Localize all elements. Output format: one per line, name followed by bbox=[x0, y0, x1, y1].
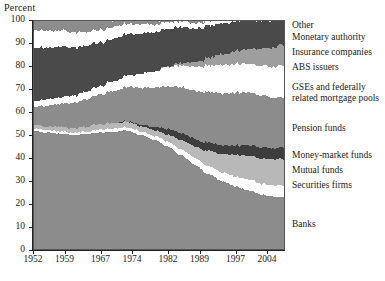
x-tick-1997: 1997 bbox=[219, 254, 253, 264]
source-note bbox=[6, 272, 306, 281]
legend-label-securities_firms: Securities firms bbox=[292, 180, 352, 192]
y-tick-30: 30 bbox=[3, 175, 25, 185]
x-tick-1952: 1952 bbox=[16, 254, 50, 264]
y-axis-title: Percent bbox=[4, 2, 35, 13]
legend-label-gses2: related mortgage pools bbox=[292, 93, 379, 105]
legend-label-insurance_companies: Insurance companies bbox=[292, 47, 372, 59]
y-tick-20: 20 bbox=[3, 198, 25, 208]
x-tick-1982: 1982 bbox=[151, 254, 185, 264]
legend-label-money_market_funds: Money-market funds bbox=[292, 150, 372, 162]
y-tick-60: 60 bbox=[3, 106, 25, 116]
y-tick-40: 40 bbox=[3, 152, 25, 162]
y-tick-70: 70 bbox=[3, 83, 25, 93]
y-tick-0: 0 bbox=[3, 244, 25, 254]
legend-label-mutual_funds: Mutual funds bbox=[292, 165, 343, 177]
legend-label-gses: GSEs and federally bbox=[292, 82, 366, 94]
legend-label-abs_issuers: ABS issuers bbox=[292, 62, 339, 74]
y-tick-10: 10 bbox=[3, 221, 25, 231]
y-tick-90: 90 bbox=[3, 37, 25, 47]
y-tick-80: 80 bbox=[3, 60, 25, 70]
y-tick-50: 50 bbox=[3, 129, 25, 139]
x-tick-1967: 1967 bbox=[84, 254, 118, 264]
x-tick-1959: 1959 bbox=[48, 254, 82, 264]
y-tick-100: 100 bbox=[3, 14, 25, 24]
legend-label-other: Other bbox=[292, 20, 314, 32]
x-tick-1974: 1974 bbox=[115, 254, 149, 264]
x-tick-2004: 2004 bbox=[250, 254, 284, 264]
legend-label-banks: Banks bbox=[292, 219, 316, 231]
legend-label-monetary_authority: Monetary authority bbox=[292, 32, 366, 44]
plot-area bbox=[33, 20, 285, 250]
chart-figure: Percent 0102030405060708090100 195219591… bbox=[0, 0, 385, 281]
x-tick-1989: 1989 bbox=[183, 254, 217, 264]
legend-label-pension_funds: Pension funds bbox=[292, 123, 346, 135]
